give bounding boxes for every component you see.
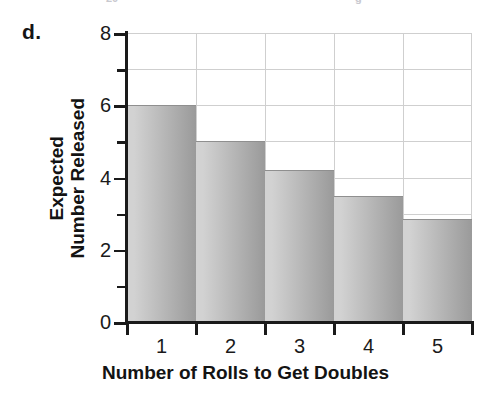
- x-axis-tick-label: 4: [334, 335, 404, 358]
- x-axis-tick-label: 5: [403, 335, 473, 358]
- x-axis-tick-label: 2: [196, 335, 266, 358]
- x-axis-tick: [195, 324, 198, 335]
- bar-chart-figure: 20 g d. Expected Number Released 02468 1…: [0, 0, 491, 401]
- y-axis-tick-minor: [117, 214, 127, 217]
- bar: [265, 170, 334, 322]
- artifact-right-fragment: g: [355, 0, 362, 4]
- y-axis-title-line-1: Expected: [46, 98, 67, 259]
- x-axis-tick: [471, 324, 474, 335]
- x-axis-tick-label: 3: [265, 335, 335, 358]
- x-axis-tick: [333, 324, 336, 335]
- x-axis-tick: [402, 324, 405, 335]
- y-axis-tick-minor: [117, 286, 127, 289]
- y-axis-tick-major: [114, 105, 127, 108]
- x-axis-title: Number of Rolls to Get Doubles: [0, 362, 491, 384]
- y-axis-tick-major: [114, 33, 127, 36]
- bar-series: [127, 33, 472, 322]
- bar: [334, 196, 403, 322]
- y-axis-tick-minor: [117, 69, 127, 72]
- x-axis-tick-label: 1: [127, 335, 197, 358]
- x-axis-tick: [264, 324, 267, 335]
- artifact-left-fragment: 20: [106, 0, 118, 4]
- y-axis-tick-major: [114, 178, 127, 181]
- cropped-text-artifacts: 20 g: [0, 0, 491, 14]
- bar: [127, 105, 196, 322]
- bar: [403, 219, 472, 322]
- y-axis-tick-label: 6: [81, 94, 111, 117]
- x-axis-tick: [126, 324, 129, 335]
- y-axis-tick-minor: [117, 141, 127, 144]
- y-axis-tick-label: 8: [81, 22, 111, 45]
- y-axis-tick-label: 4: [81, 166, 111, 189]
- plot-area: [127, 33, 472, 322]
- x-axis-line: [125, 321, 474, 324]
- y-axis-tick-major: [114, 250, 127, 253]
- y-axis-tick-label: 0: [81, 311, 111, 334]
- bar: [196, 141, 265, 322]
- y-axis-tick-label: 2: [81, 238, 111, 261]
